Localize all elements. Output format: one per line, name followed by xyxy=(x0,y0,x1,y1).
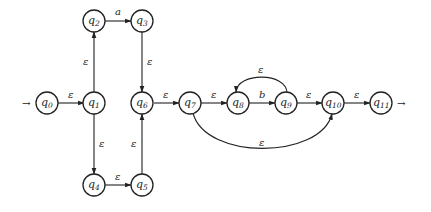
svg-text:a: a xyxy=(115,6,121,17)
state-q3: q3 xyxy=(131,10,153,32)
edge-q6-q7: ε xyxy=(154,89,179,103)
svg-text:→: → xyxy=(397,98,406,109)
svg-text:ε: ε xyxy=(83,56,88,67)
edge-q9-q10: ε xyxy=(297,89,322,103)
svg-text:ε: ε xyxy=(68,89,73,100)
edge-q1-q4: ε xyxy=(94,114,104,174)
svg-text:ε: ε xyxy=(211,89,216,100)
edge-q10-q11: ε xyxy=(344,89,370,103)
edge-q0-q1: ε xyxy=(58,89,84,103)
accept-arrow: → xyxy=(397,98,406,109)
state-q4: q4 xyxy=(83,174,105,196)
edge-q5-q6: ε xyxy=(131,114,142,174)
state-q2: q2 xyxy=(83,10,105,32)
edge-q4-q5: ε xyxy=(105,171,131,185)
state-q6: q6 xyxy=(131,92,153,114)
edge-q7-q10-bypass: ε xyxy=(193,113,332,148)
edge-q7-q8: ε xyxy=(201,89,227,103)
svg-text:ε: ε xyxy=(163,89,168,100)
svg-text:ε: ε xyxy=(99,138,104,149)
svg-text:b: b xyxy=(259,89,265,100)
svg-text:ε: ε xyxy=(115,171,120,182)
svg-text:ε: ε xyxy=(258,64,263,75)
state-q8: q8 xyxy=(227,92,249,114)
state-q7: q7 xyxy=(179,92,201,114)
svg-text:ε: ε xyxy=(354,89,359,100)
state-q10: q10 xyxy=(322,92,344,114)
edge-q3-q6: ε xyxy=(142,32,152,92)
edge-q8-q9: b xyxy=(249,89,275,103)
svg-text:ε: ε xyxy=(306,89,311,100)
svg-text:→: → xyxy=(22,98,31,109)
edge-q2-q3: a xyxy=(105,6,131,21)
start-arrow: → xyxy=(22,98,31,109)
svg-text:ε: ε xyxy=(147,56,152,67)
svg-text:ε: ε xyxy=(259,137,264,148)
svg-text:ε: ε xyxy=(131,138,136,149)
state-q9: q9 xyxy=(275,92,297,114)
edge-q1-q2: ε xyxy=(83,32,94,92)
state-q0: q0 xyxy=(36,92,58,114)
state-q1: q1 xyxy=(83,92,105,114)
state-q11: q11 xyxy=(370,92,392,114)
nfa-diagram: → → ε ε a ε ε ε ε ε ε b xyxy=(0,0,431,212)
state-q5: q5 xyxy=(131,174,153,196)
